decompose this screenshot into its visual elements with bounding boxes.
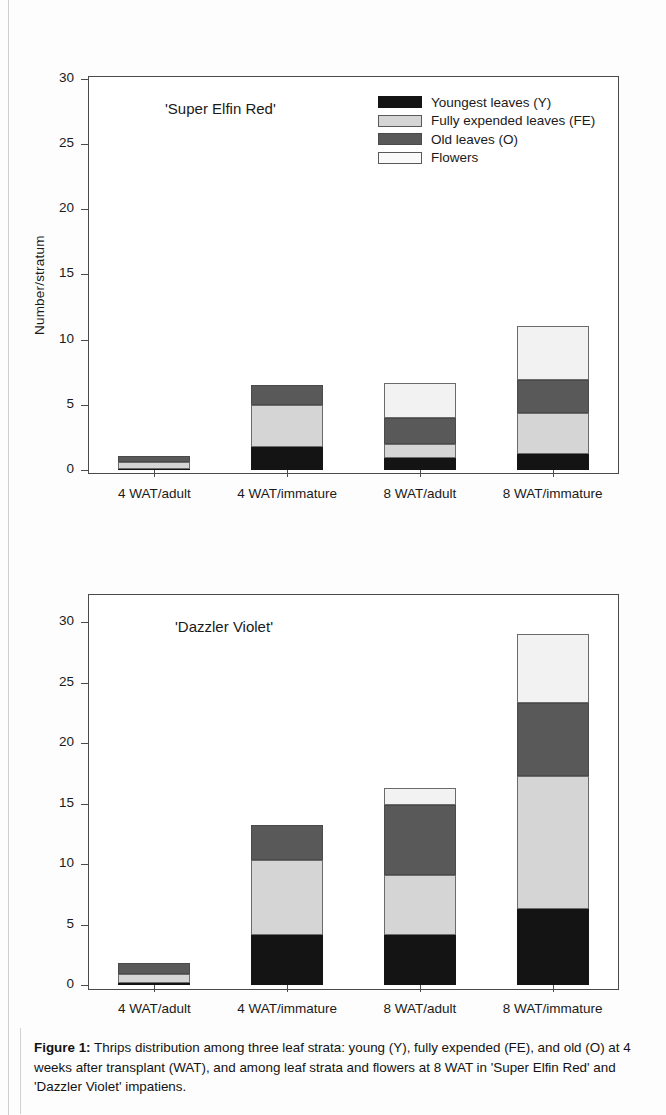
bar-segment-fe[interactable] [118,974,190,982]
y-axis-tick-mark [81,743,88,744]
x-axis-tick-mark [154,985,155,992]
bar-segment-o[interactable] [517,380,589,413]
y-axis-tick-mark [81,925,88,926]
x-axis-category-label: 8 WAT/immature [480,1001,625,1016]
bar-segment-fe[interactable] [251,860,323,935]
x-axis-tick-mark [553,470,554,477]
stacked-bar[interactable] [118,456,190,470]
bar-segment-y[interactable] [251,935,323,985]
figure-caption-label: Figure 1: [34,1040,91,1055]
bar-segment-o[interactable] [118,456,190,463]
figure-caption: Figure 1: Thrips distribution among thre… [34,1038,646,1097]
legend-label: Old leaves (O) [431,132,518,147]
y-axis-title: Number/stratum [32,235,47,335]
y-axis-tick-mark [81,683,88,684]
y-axis-tick-label: 30 [32,70,74,85]
y-axis-tick-mark [81,470,88,471]
x-axis-category-label: 4 WAT/immature [215,1001,360,1016]
bar-segment-y[interactable] [517,454,589,470]
legend-item-fe: Fully expended leaves (FE) [378,112,595,131]
bar-segment-o[interactable] [251,825,323,860]
y-axis-tick-mark [81,144,88,145]
bar-segment-fe[interactable] [517,413,589,455]
bar-segment-fe[interactable] [251,405,323,447]
x-axis-category-label: 4 WAT/adult [82,1001,227,1016]
y-axis-tick-mark [81,804,88,805]
bar-segment-fl[interactable] [384,788,456,805]
x-axis-tick-mark [420,470,421,477]
caption-left-rule [20,1028,21,1114]
figure-caption-text: Thrips distribution among three leaf str… [34,1040,631,1094]
stacked-bar[interactable] [517,634,589,985]
x-axis-tick-mark [287,470,288,477]
chart-legend: Youngest leaves (Y)Fully expended leaves… [378,93,595,167]
bar-segment-y[interactable] [384,935,456,985]
bar-segment-o[interactable] [384,418,456,444]
bar-segment-o[interactable] [118,963,190,974]
x-axis-category-label: 4 WAT/immature [215,486,360,501]
x-axis-category-label: 8 WAT/adult [348,1001,493,1016]
bar-segment-fl[interactable] [384,383,456,418]
y-axis-tick-label: 0 [32,461,74,476]
y-axis-tick-mark [81,79,88,80]
x-axis-tick-mark [154,470,155,477]
stacked-bar[interactable] [118,963,190,985]
legend-item-y: Youngest leaves (Y) [378,93,595,112]
legend-swatch-fe-icon [378,115,422,127]
bar-segment-o[interactable] [251,385,323,405]
y-axis-tick-mark [81,985,88,986]
bar-segment-fe[interactable] [517,776,589,909]
legend-swatch-o-icon [378,133,422,145]
bar-segment-o[interactable] [517,703,589,776]
stacked-bar[interactable] [384,383,456,470]
y-axis-tick-label: 20 [32,734,74,749]
bar-segment-y[interactable] [384,458,456,470]
plot-title: 'Super Elfin Red' [165,100,276,117]
y-axis-tick-mark [81,864,88,865]
figure-page: 051015202530Number/stratum'Super Elfin R… [0,0,666,1115]
legend-item-o: Old leaves (O) [378,130,595,149]
y-axis-tick-mark [81,622,88,623]
legend-swatch-fl-icon [378,152,422,164]
legend-swatch-y-icon [378,96,422,108]
legend-label: Youngest leaves (Y) [431,95,551,110]
bar-segment-fl[interactable] [517,326,589,380]
stacked-bar[interactable] [251,385,323,470]
legend-label: Fully expended leaves (FE) [431,113,595,128]
x-axis-tick-mark [420,985,421,992]
legend-item-fl: Flowers [378,149,595,168]
bar-segment-fl[interactable] [517,634,589,703]
bar-segment-o[interactable] [384,805,456,875]
y-axis-tick-label: 10 [32,855,74,870]
y-axis-tick-label: 5 [32,916,74,931]
x-axis-category-label: 8 WAT/adult [348,486,493,501]
y-axis-tick-label: 25 [32,135,74,150]
y-axis-tick-mark [81,209,88,210]
stacked-bar[interactable] [251,825,323,985]
bar-segment-fe[interactable] [384,875,456,936]
bar-segment-fe[interactable] [118,462,190,469]
stacked-bar[interactable] [517,326,589,470]
y-axis-tick-label: 25 [32,674,74,689]
y-axis-tick-mark [81,274,88,275]
bar-segment-fe[interactable] [384,444,456,458]
stacked-bar[interactable] [384,788,456,985]
y-axis-tick-label: 5 [32,396,74,411]
x-axis-category-label: 8 WAT/immature [480,486,625,501]
legend-label: Flowers [431,150,478,165]
y-axis-tick-label: 20 [32,200,74,215]
page-left-rule [8,0,9,1115]
x-axis-tick-mark [287,985,288,992]
plot-title: 'Dazzler Violet' [175,618,273,635]
y-axis-tick-label: 0 [32,976,74,991]
y-axis-tick-label: 15 [32,795,74,810]
bar-segment-y[interactable] [251,447,323,470]
y-axis-tick-label: 30 [32,613,74,628]
bar-segment-y[interactable] [517,909,589,985]
x-axis-category-label: 4 WAT/adult [82,486,227,501]
x-axis-tick-mark [553,985,554,992]
y-axis-tick-mark [81,340,88,341]
y-axis-tick-mark [81,405,88,406]
